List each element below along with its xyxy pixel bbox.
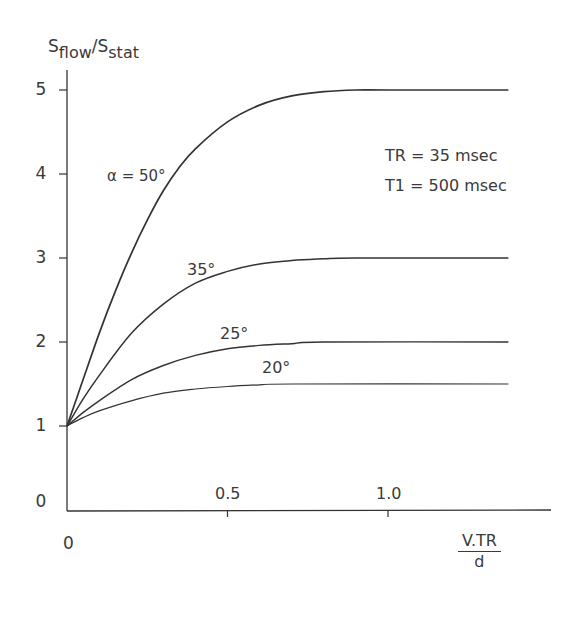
series-label-35: 35° bbox=[187, 260, 215, 279]
x-tick-label-0-5: 0.5 bbox=[215, 484, 240, 503]
x-axis-label: V.TR d bbox=[458, 531, 501, 571]
annotation-tr: TR = 35 msec bbox=[385, 146, 497, 165]
y-tick-label-1: 1 bbox=[29, 415, 53, 435]
x-tick-label-1-0: 1.0 bbox=[376, 484, 401, 503]
x-label-denominator: d bbox=[458, 552, 501, 571]
y-label-s1: S bbox=[48, 36, 59, 56]
y-tick-label-2: 2 bbox=[29, 331, 53, 351]
chart-plot bbox=[0, 0, 586, 618]
series-line-20 bbox=[67, 384, 508, 426]
y-axis-label: Sflow/Sstat bbox=[48, 36, 139, 62]
x-axis bbox=[67, 510, 551, 511]
series-label-20: 20° bbox=[262, 358, 290, 377]
x-origin-label: 0 bbox=[63, 533, 74, 553]
x-label-numerator: V.TR bbox=[458, 531, 501, 552]
y-tick-label-3: 3 bbox=[29, 247, 53, 267]
y-tick-label-0: 0 bbox=[29, 491, 53, 511]
y-tick-label-5: 5 bbox=[29, 79, 53, 99]
series-label-25: 25° bbox=[220, 324, 248, 343]
y-label-slash-s: /S bbox=[92, 36, 109, 56]
y-ticks bbox=[59, 90, 67, 426]
y-label-sub-flow: flow bbox=[59, 43, 92, 62]
y-label-sub-stat: stat bbox=[108, 43, 139, 62]
y-tick-label-4: 4 bbox=[29, 163, 53, 183]
annotation-t1: T1 = 500 msec bbox=[385, 176, 507, 195]
series-label-50: α = 50° bbox=[107, 167, 166, 185]
